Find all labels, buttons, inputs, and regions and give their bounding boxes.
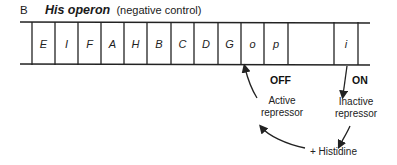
gene-label-I: I	[65, 38, 68, 50]
gene-label-o: o	[249, 38, 255, 50]
active-repressor-label-1: Active	[268, 95, 296, 106]
inactive-repressor-label-1: Inactive	[339, 96, 374, 107]
dna-top-line	[20, 22, 370, 23]
gene-segments: EIFAHBCDGopi	[32, 22, 358, 65]
gene-label-F: F	[86, 38, 94, 50]
histidine-label: + Histidine	[310, 146, 357, 157]
off-label: OFF	[270, 74, 292, 86]
gene-label-D: D	[202, 38, 210, 50]
gene-label-C: C	[179, 38, 187, 50]
gene-label-A: A	[108, 38, 116, 50]
gene-label-i: i	[345, 38, 348, 50]
gene-label-E: E	[40, 38, 48, 50]
inactive-to-histidine-curve	[340, 126, 350, 145]
histidine-to-active-curve	[262, 128, 305, 148]
operon-diagram: EIFAHBCDGopi OFF ON Active repressor Ina…	[0, 0, 397, 165]
active-repressor-arrow	[245, 68, 257, 98]
gene-label-p: p	[272, 38, 279, 50]
active-repressor-label-2: repressor	[261, 107, 304, 118]
gene-label-G: G	[225, 38, 234, 50]
inactive-repressor-arrow	[343, 66, 347, 95]
gene-label-H: H	[132, 38, 140, 50]
gene-label-B: B	[155, 38, 162, 50]
dna-bottom-line	[20, 64, 370, 65]
inactive-repressor-label-2: repressor	[335, 108, 378, 119]
on-label: ON	[352, 74, 368, 86]
